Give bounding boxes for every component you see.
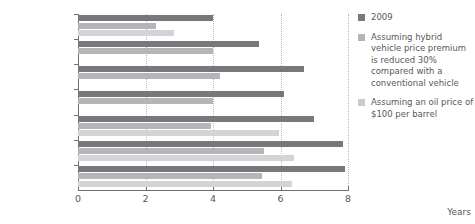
bar xyxy=(78,123,211,129)
chart-legend: 2009Assuming hybrid vehicle price premiu… xyxy=(358,12,474,128)
legend-label: Assuming an oil price of $100 per barrel xyxy=(371,97,473,119)
bar xyxy=(78,66,304,72)
x-axis-tick-label: 6 xyxy=(277,193,283,204)
x-axis-tick xyxy=(146,186,147,191)
bar xyxy=(78,148,264,154)
bar xyxy=(78,181,292,187)
x-axis-tick xyxy=(213,186,214,191)
x-axis-tick-label: 8 xyxy=(345,193,351,204)
legend-item[interactable]: Assuming hybrid vehicle price premium is… xyxy=(358,32,474,90)
legend-swatch-icon xyxy=(358,99,365,106)
bar xyxy=(78,166,345,172)
bar-chart: 02468 GermanyFranceUnited KingdomUnited … xyxy=(0,0,475,224)
bar xyxy=(78,41,259,47)
bar xyxy=(78,73,220,79)
bar xyxy=(78,15,213,21)
gridline xyxy=(348,14,350,190)
bar xyxy=(78,98,213,104)
x-axis-tick xyxy=(78,186,79,191)
bar xyxy=(78,30,174,36)
x-axis-tick xyxy=(281,186,282,191)
legend-label: 2009 xyxy=(371,12,393,22)
bar xyxy=(78,91,284,97)
legend-label: Assuming hybrid vehicle price premium is… xyxy=(371,32,466,88)
x-axis-title: Years xyxy=(447,207,471,217)
gridline xyxy=(281,14,283,190)
legend-item[interactable]: 2009 xyxy=(358,12,474,24)
bar xyxy=(78,23,156,29)
bar xyxy=(78,116,314,122)
legend-swatch-icon xyxy=(358,14,365,21)
clipped-title xyxy=(0,0,475,4)
x-axis-tick-label: 2 xyxy=(142,193,148,204)
bar xyxy=(78,141,343,147)
bar xyxy=(78,130,279,136)
x-axis-tick-label: 4 xyxy=(210,193,216,204)
x-axis-tick xyxy=(348,186,349,191)
bar xyxy=(78,173,262,179)
x-axis-tick-label: 0 xyxy=(75,193,81,204)
legend-item[interactable]: Assuming an oil price of $100 per barrel xyxy=(358,97,474,120)
bar xyxy=(78,48,213,54)
bar xyxy=(78,155,294,161)
legend-swatch-icon xyxy=(358,34,365,41)
